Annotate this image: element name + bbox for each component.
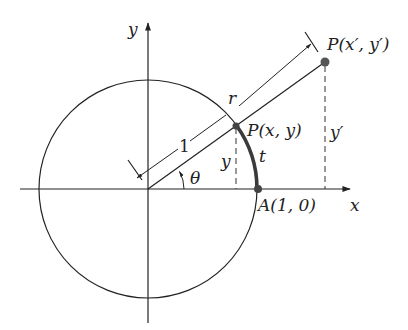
y-axis-label: y bbox=[127, 19, 138, 39]
theta-angle-arc bbox=[180, 172, 185, 190]
dimension-line-lower bbox=[137, 149, 178, 178]
y-prime-segment-label: y′ bbox=[329, 122, 344, 142]
point-p-prime bbox=[321, 58, 330, 67]
dimension-line-upper bbox=[239, 44, 311, 106]
point-a-label: A(1, 0) bbox=[256, 195, 316, 215]
theta-label: θ bbox=[190, 168, 200, 188]
r-label: r bbox=[228, 88, 237, 108]
dimension-tick-upper bbox=[305, 32, 318, 52]
x-axis-label: x bbox=[350, 195, 360, 215]
y-segment-label: y bbox=[220, 151, 231, 171]
unit-length-label: 1 bbox=[179, 136, 190, 156]
dimension-tick-lower bbox=[128, 160, 142, 180]
unit-circle-diagram: y x P(x′, y′) P(x, y) A(1, 0) 1 r θ t y … bbox=[0, 0, 408, 330]
point-p-prime-label: P(x′, y′) bbox=[326, 34, 389, 54]
point-p bbox=[233, 123, 240, 130]
point-p-label: P(x, y) bbox=[246, 120, 302, 140]
point-a bbox=[254, 185, 262, 193]
arc-t-label: t bbox=[259, 146, 266, 166]
